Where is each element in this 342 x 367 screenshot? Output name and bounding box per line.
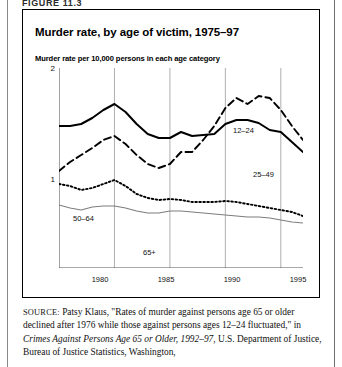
source-line-3a: fluctuated," in: [248, 320, 301, 330]
page-rule-right: [334, 0, 335, 367]
plot-area: [59, 68, 303, 268]
y-axis-tick-label-2: 2: [41, 64, 55, 73]
series-line-12-24: [59, 96, 303, 171]
source-note: SOURCE: Patsy Klaus, "Rates of murder ag…: [23, 306, 325, 360]
series-label-12-24: 12–24: [233, 126, 254, 135]
y-axis-tick-label-1: 1: [41, 175, 55, 184]
page-rule-left: [7, 0, 8, 367]
source-line-1: Patsy Klaus, "Rates of murder against pe…: [60, 307, 273, 317]
figure-page: FIGURE 11.3 Murder rate, by age of victi…: [0, 0, 342, 367]
source-prefix: SOURCE:: [23, 308, 60, 317]
x-axis-tick-label-1990: 1990: [215, 275, 249, 284]
series-label-65-plus: 65+: [143, 248, 156, 257]
series-label-50-64: 50–64: [73, 214, 94, 223]
x-axis-tick-label-1995: 1995: [281, 275, 315, 284]
x-axis-tick-label-1980: 1980: [83, 275, 117, 284]
series-label-25-49: 25–49: [253, 170, 274, 179]
chart-svg: [59, 68, 303, 268]
source-line-3b: ,: [213, 334, 215, 344]
x-axis-tick-label-1985: 1985: [149, 275, 183, 284]
chart-title: Murder rate, by age of victim, 1975–97: [35, 26, 305, 38]
figure-box: Murder rate, by age of victim, 1975–97 M…: [22, 9, 320, 298]
source-publication-title: Crimes Against Persons Age 65 or Older, …: [23, 334, 213, 344]
chart-subtitle: Murder rate per 10,000 persons in each a…: [35, 54, 307, 63]
